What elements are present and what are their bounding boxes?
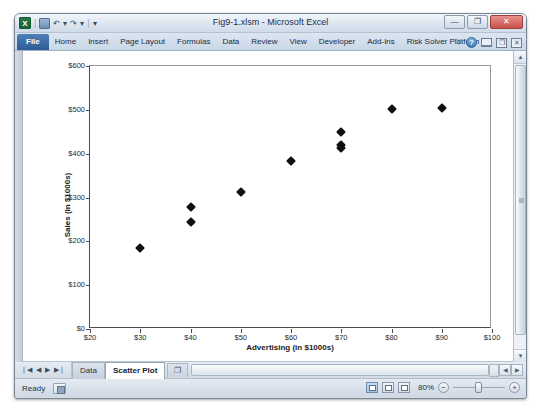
x-tick-label: $90	[435, 333, 448, 342]
next-sheet-arrow-icon[interactable]: ▶	[45, 366, 50, 374]
scroll-down-arrow-icon[interactable]: ▼	[514, 349, 527, 362]
y-tick-label: $100	[45, 280, 85, 289]
scroll-left-arrow-icon[interactable]: ◀	[499, 364, 511, 376]
tab-add-ins[interactable]: Add-Ins	[361, 34, 401, 50]
help-icon[interactable]: ?	[466, 37, 477, 48]
data-point[interactable]	[186, 218, 196, 228]
x-tick-label: $80	[385, 333, 398, 342]
tab-insert[interactable]: Insert	[82, 34, 114, 50]
first-sheet-arrow-icon[interactable]: ❘◀	[21, 366, 32, 374]
zoom-in-button[interactable]: +	[509, 382, 520, 393]
prev-sheet-arrow-icon[interactable]: ◀	[36, 366, 41, 374]
ribbon-tab-strip: File Home Insert Page Layout Formulas Da…	[15, 33, 526, 51]
tab-page-layout[interactable]: Page Layout	[114, 34, 171, 50]
ribbon-right-controls: ♡ ? ❐ ✕	[455, 37, 522, 48]
x-tick-label: $100	[484, 333, 501, 342]
ribbon-collapse-icon[interactable]: ♡	[455, 38, 462, 48]
vertical-scrollbar[interactable]: ▲ ▼	[513, 51, 526, 362]
title-bar: X | ↶ ▾ ↷ ▾ | ▾ Fig9-1.xlsm - Microsoft …	[15, 14, 526, 33]
page-layout-view-icon[interactable]	[382, 382, 394, 393]
normal-view-icon[interactable]	[366, 382, 378, 393]
maximize-button[interactable]: ❐	[467, 15, 488, 29]
plot-area: $20$30$40$50$60$70$80$90$100	[89, 65, 491, 328]
x-tick-mark	[90, 329, 91, 333]
y-tick-label: $600	[45, 61, 85, 70]
x-tick-label: $70	[335, 333, 348, 342]
horizontal-scrollbar-thumb[interactable]	[191, 364, 489, 376]
tab-formulas[interactable]: Formulas	[171, 34, 216, 50]
window-controls: — ❐ ✕	[444, 15, 523, 29]
vertical-scrollbar-thumb[interactable]	[515, 65, 526, 335]
scroll-right-arrow-icon[interactable]: ▶	[511, 364, 523, 376]
tab-home[interactable]: Home	[49, 34, 82, 50]
x-tick-mark	[140, 329, 141, 333]
data-point[interactable]	[437, 103, 447, 113]
y-tick-label: $400	[45, 148, 85, 157]
sheet-navigation-arrows[interactable]: ❘◀ ◀ ▶ ▶❘	[15, 362, 72, 378]
scroll-up-arrow-icon[interactable]: ▲	[514, 51, 527, 64]
sheet-tab-data[interactable]: Data	[72, 362, 105, 379]
x-tick-mark	[392, 329, 393, 333]
zoom-slider-handle[interactable]	[475, 382, 482, 393]
data-point[interactable]	[186, 202, 196, 212]
x-tick-label: $60	[285, 333, 298, 342]
x-tick-label: $30	[134, 333, 147, 342]
worksheet-area: Sales (in $1000s) $20$30$40$50$60$70$80$…	[15, 51, 526, 362]
sheet-tab-scatter-plot[interactable]: Scatter Plot	[105, 362, 165, 379]
y-tick-mark	[86, 285, 90, 286]
excel-application-window: X | ↶ ▾ ↷ ▾ | ▾ Fig9-1.xlsm - Microsoft …	[14, 13, 527, 399]
data-point[interactable]	[387, 104, 397, 114]
zoom-out-button[interactable]: −	[438, 382, 449, 393]
y-tick-mark	[86, 154, 90, 155]
zoom-level[interactable]: 80%	[414, 383, 434, 392]
status-bar: Ready 80% − +	[15, 379, 526, 397]
tab-view[interactable]: View	[284, 34, 313, 50]
data-point[interactable]	[135, 243, 145, 253]
tab-file[interactable]: File	[17, 34, 49, 50]
status-text: Ready	[15, 384, 45, 393]
x-tick-label: $20	[84, 333, 97, 342]
y-tick-mark	[86, 198, 90, 199]
y-tick-label: $200	[45, 236, 85, 245]
last-sheet-arrow-icon[interactable]: ▶❘	[54, 366, 65, 374]
x-tick-label: $40	[184, 333, 197, 342]
horizontal-scrollbar[interactable]: ◀ ▶	[191, 364, 523, 377]
insert-worksheet-icon[interactable]: ❐	[167, 363, 188, 377]
tab-developer[interactable]: Developer	[313, 34, 361, 50]
data-point[interactable]	[236, 187, 246, 197]
x-tick-mark	[492, 329, 493, 333]
x-tick-mark	[191, 329, 192, 333]
minimize-button[interactable]: —	[444, 15, 465, 29]
x-tick-mark	[291, 329, 292, 333]
y-tick-mark	[86, 110, 90, 111]
row-header-strip	[15, 51, 23, 362]
close-button[interactable]: ✕	[490, 15, 523, 29]
tab-review[interactable]: Review	[245, 34, 283, 50]
close-workbook-icon[interactable]: ✕	[511, 38, 522, 48]
split-handle[interactable]	[489, 364, 499, 377]
data-point[interactable]	[286, 156, 296, 166]
x-tick-label: $50	[234, 333, 247, 342]
restore-workbook-icon[interactable]: ❐	[496, 38, 507, 48]
y-tick-label: $500	[45, 104, 85, 113]
sheet-tab-bar: ❘◀ ◀ ▶ ▶❘ Data Scatter Plot ❐ ◀ ▶	[15, 362, 526, 379]
tab-data[interactable]: Data	[216, 34, 245, 50]
y-axis-title: Sales (in $1000s)	[63, 173, 72, 237]
x-tick-mark	[442, 329, 443, 333]
y-tick-mark	[86, 241, 90, 242]
macro-record-icon[interactable]	[53, 383, 66, 394]
x-axis-title: Advertising (in $1000s)	[89, 343, 491, 352]
page-break-preview-icon[interactable]	[398, 382, 410, 393]
y-tick-mark	[86, 66, 90, 67]
zoom-slider[interactable]	[453, 382, 505, 393]
x-tick-mark	[241, 329, 242, 333]
y-tick-label: $0	[45, 324, 85, 333]
y-tick-label: $300	[45, 192, 85, 201]
minimize-workbook-icon[interactable]	[481, 38, 492, 47]
data-point[interactable]	[336, 127, 346, 137]
status-bar-right: 80% − +	[366, 382, 520, 393]
scatter-chart[interactable]: Sales (in $1000s) $20$30$40$50$60$70$80$…	[27, 55, 503, 355]
x-tick-mark	[341, 329, 342, 333]
